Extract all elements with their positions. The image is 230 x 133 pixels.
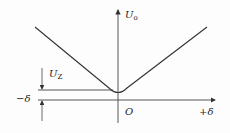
uz-label-sub: Z (57, 73, 62, 81)
origin-label: O (125, 107, 133, 117)
uz-label: UZ (49, 69, 62, 81)
v-curve (35, 27, 207, 93)
positive-delta-label: +δ (199, 107, 213, 117)
y-axis-label-sub: o (133, 14, 137, 22)
diagram-graphic (0, 0, 230, 133)
diagram-canvas: Uo UZ −δ O +δ (0, 0, 230, 133)
y-axis-label: Uo (125, 10, 138, 22)
negative-delta-label: −δ (16, 94, 30, 104)
